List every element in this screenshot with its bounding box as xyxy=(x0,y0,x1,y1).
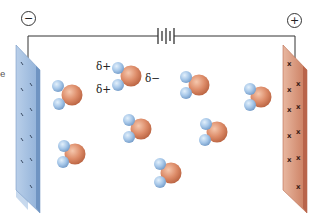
edge-text-fragment: e xyxy=(0,70,5,79)
water-molecule xyxy=(52,80,83,110)
positive-electrode: x x x x x x x x x x xyxy=(283,45,307,213)
water-molecule xyxy=(244,83,272,111)
svg-text:x: x xyxy=(287,86,292,94)
electrolysis-diagram: x x x x x x x x x x xyxy=(0,0,316,221)
water-molecules xyxy=(52,62,272,188)
water-molecule xyxy=(154,158,182,188)
water-molecule xyxy=(180,71,210,99)
battery-icon xyxy=(153,28,176,44)
svg-text:x: x xyxy=(296,183,301,191)
diagram-canvas: x x x x x x x x x x xyxy=(0,0,316,221)
negative-electrode xyxy=(16,45,40,213)
partial-charge-h-top: δ+ xyxy=(96,61,111,72)
svg-text:x: x xyxy=(296,103,301,111)
svg-text:x: x xyxy=(287,106,292,114)
svg-text:x: x xyxy=(296,128,301,136)
svg-text:x: x xyxy=(296,154,301,162)
partial-charge-oxygen: δ− xyxy=(145,73,160,84)
svg-text:x: x xyxy=(287,132,292,140)
negative-terminal-icon: − xyxy=(21,11,36,26)
positive-terminal-icon: + xyxy=(287,13,302,28)
svg-text:x: x xyxy=(296,80,301,88)
water-molecule-labeled xyxy=(112,62,142,91)
water-molecule xyxy=(199,118,228,146)
partial-charge-h-bottom: δ+ xyxy=(96,84,111,95)
svg-text:x: x xyxy=(287,60,292,68)
svg-text:x: x xyxy=(287,156,292,164)
water-molecule xyxy=(57,140,86,168)
water-molecule xyxy=(123,114,152,143)
